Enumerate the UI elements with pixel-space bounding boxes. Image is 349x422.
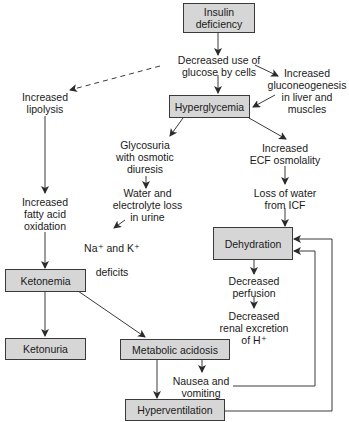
label-increased-fatty-acid-oxidation: Increased fatty acid oxidation	[10, 196, 80, 232]
box-ketonemia: Ketonemia	[5, 269, 86, 292]
label-nausea-vomiting: Nausea and vomiting	[166, 375, 236, 399]
box-insulin-deficiency: Insulin deficiency	[183, 3, 255, 33]
label-loss-of-water-icf: Loss of water from ICF	[245, 187, 325, 211]
box-dehydration: Dehydration	[213, 227, 293, 260]
box-ketonuria: Ketonuria	[5, 338, 86, 360]
label-decreased-glucose-use: Decreased use of glucose by cells	[160, 54, 278, 78]
box-metabolic-acidosis: Metabolic acidosis	[120, 339, 230, 360]
label-water-electrolyte-loss: Water and electrolyte loss in urine	[105, 187, 190, 223]
label-increased-gluconeogenesis: Increased gluconeogenesis in liver and m…	[262, 67, 349, 115]
label-increased-lipolysis: Increased lipolysis	[10, 91, 80, 115]
label-glycosuria: Glycosuria with osmotic diuresis	[110, 139, 180, 175]
na-k-line1: Na⁺ and K⁺	[72, 242, 152, 254]
box-hyperventilation: Hyperventilation	[125, 399, 225, 421]
label-increased-ecf-osmolality: Increased ECF osmolality	[245, 142, 325, 166]
label-decreased-perfusion: Decreased perfusion	[214, 275, 294, 299]
box-hyperglycemia: Hyperglycemia	[169, 95, 250, 118]
